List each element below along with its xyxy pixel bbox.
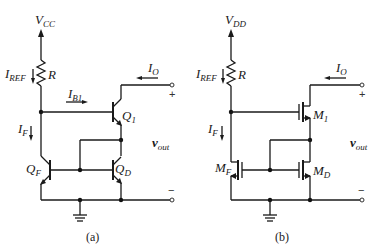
vdd-label: VDD <box>225 12 246 29</box>
ib1-arrow-icon <box>82 100 88 104</box>
io-arrow-icon <box>324 76 330 80</box>
ib1-label: IB1 <box>67 86 82 103</box>
minus-sign: − <box>168 184 174 196</box>
circuit-figure: VCC IREF R IB1 Q1 + <box>0 0 379 252</box>
iref-label: IREF <box>4 66 26 83</box>
transistor-m1 <box>299 85 360 140</box>
transistor-mf <box>230 160 242 200</box>
resistor-label: R <box>237 67 246 82</box>
iref-arrow-icon <box>31 78 35 84</box>
circuit-a: VCC IREF R IB1 Q1 + <box>4 12 175 244</box>
iref-arrow-icon <box>221 78 225 84</box>
output-terminal-plus <box>170 83 174 87</box>
io-label: IO <box>147 60 159 77</box>
plus-sign: + <box>359 88 365 100</box>
supply-arrow-icon <box>38 29 44 37</box>
transistor-qf <box>40 156 50 200</box>
if-arrow-icon <box>220 135 224 141</box>
q1-label: Q1 <box>122 108 136 125</box>
caption-b: (b) <box>275 230 289 244</box>
mf-label: MF <box>214 160 232 177</box>
vout-label: vout <box>350 135 368 152</box>
output-terminal-minus <box>360 198 364 202</box>
m1-label: M1 <box>312 107 328 124</box>
resistor-label: R <box>47 67 56 82</box>
iref-label: IREF <box>195 66 217 83</box>
resistor-r <box>37 60 45 86</box>
vcc-label: VCC <box>35 12 56 29</box>
transistor-md <box>299 160 311 200</box>
md-label: MD <box>312 163 331 180</box>
resistor-r <box>227 60 235 86</box>
vout-label: vout <box>152 135 170 152</box>
io-arrow-icon <box>136 76 142 80</box>
circuit-b: VDD IREF R M1 + IO vout IF <box>195 12 368 244</box>
minus-sign: − <box>358 184 364 196</box>
qd-label: QD <box>115 161 131 178</box>
ground-icon <box>73 200 87 221</box>
io-label: IO <box>335 60 347 77</box>
ground-icon <box>263 200 277 221</box>
plus-sign: + <box>169 88 175 100</box>
qf-label: QF <box>26 161 41 178</box>
supply-arrow-icon <box>228 29 234 37</box>
output-terminal-minus <box>170 198 174 202</box>
if-label: IF <box>17 121 28 138</box>
if-arrow-icon <box>29 135 33 141</box>
if-label: IF <box>207 121 218 138</box>
output-terminal-plus <box>360 83 364 87</box>
caption-a: (a) <box>86 230 99 244</box>
